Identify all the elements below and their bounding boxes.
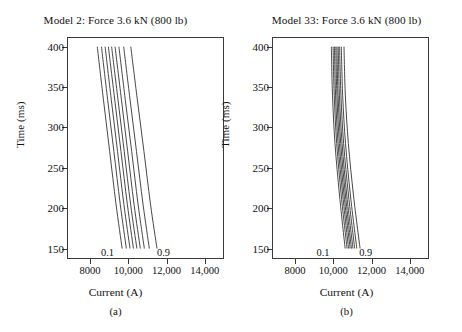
contour-line-0.7 [119,47,144,249]
panel-a-contour-lines [67,37,224,259]
x-tick-mark [372,259,373,264]
panel-a-contour-label-high: 0.9 [157,248,170,258]
panel-a-title: Model 2: Force 3.6 kN (800 lb) [0,14,231,26]
panel-b-contour-label-high: 0.9 [359,248,372,258]
contour-line-0.5 [112,47,137,249]
x-tick-label: 14,000 [190,266,219,277]
y-tick-label: 300 [48,122,65,133]
x-tick-mark [410,259,411,264]
x-tick-label: 8000 [79,266,100,277]
panel-b-y-axis-label: Time (ms) [219,101,231,148]
y-tick-label: 400 [253,41,270,52]
y-tick-label: 150 [48,243,65,254]
panel-a-contour-label-low: 0.1 [101,248,114,258]
x-tick-mark [205,259,206,264]
x-tick-mark [333,259,334,264]
y-tick-label: 200 [253,203,270,214]
y-tick-label: 200 [48,203,65,214]
panel-a-x-axis-label: Current (A) [0,286,231,298]
panel-b-title: Model 33: Force 3.6 kN (800 lb) [231,14,462,26]
figure-root: Model 2: Force 3.6 kN (800 lb) Time (ms)… [0,0,462,332]
x-tick-label: 12,000 [357,266,386,277]
panel-b-subcaption: (b) [231,305,462,317]
panel-a: Model 2: Force 3.6 kN (800 lb) Time (ms)… [0,0,231,332]
panel-a-plot-area: 150200250300350400 800010,00012,00014,00… [67,37,224,259]
x-tick-label: 10,000 [319,266,348,277]
panel-a-contour-svg [67,37,224,259]
panel-b-contour-label-low: 0.1 [317,248,330,258]
y-tick-label: 350 [253,82,270,93]
y-tick-label: 300 [253,122,270,133]
x-tick-label: 14,000 [395,266,424,277]
panel-b: Model 33: Force 3.6 kN (800 lb) Time (ms… [231,0,462,332]
contour-line-0.9 [131,47,157,249]
panel-a-y-axis-label: Time (ms) [14,101,26,148]
panel-b-x-axis-label: Current (A) [231,286,462,298]
x-tick-mark [167,259,168,264]
x-tick-mark [128,259,129,264]
x-tick-mark [90,259,91,264]
y-tick-label: 250 [48,162,65,173]
x-tick-mark [295,259,296,264]
y-tick-label: 350 [48,82,65,93]
panel-b-contour-svg [272,37,429,259]
panel-b-contour-lines [272,37,429,259]
y-tick-label: 400 [48,41,65,52]
x-tick-label: 10,000 [114,266,143,277]
panel-b-plot-area: 150200250300350400 800010,00012,00014,00… [272,37,429,259]
contour-line-0.4 [108,47,133,249]
y-tick-label: 250 [253,162,270,173]
x-tick-label: 12,000 [152,266,181,277]
panel-a-subcaption: (a) [0,305,231,317]
x-tick-label: 8000 [284,266,305,277]
y-tick-label: 150 [253,243,270,254]
